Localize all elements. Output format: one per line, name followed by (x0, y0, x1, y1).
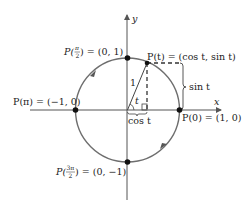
angle-label: t (135, 95, 139, 106)
cos-label: cos t (128, 115, 151, 126)
label-p-pi: P(π) = (−1, 0) (13, 96, 81, 107)
sin-brace (180, 63, 186, 110)
angle-arc (130, 104, 134, 110)
label-p-zero: P(0) = (1, 0) (182, 112, 241, 123)
point-p-3pi-over-2 (125, 159, 131, 165)
radius-label: 1 (130, 77, 136, 88)
point-p-pi-over-2 (125, 55, 131, 61)
sin-label: sin t (189, 81, 210, 92)
svg-text:P(: P( (55, 166, 66, 177)
y-axis-label: y (131, 13, 138, 24)
svg-text:2: 2 (76, 52, 80, 59)
unit-circle-diagram: x y P( π 2 ) = (0, 1) P(π) = (−1, 0) P(0… (0, 0, 246, 211)
point-p-pi (73, 107, 79, 113)
right-angle-marker (142, 104, 147, 110)
label-p-pi-over-2: P( π 2 ) = (0, 1) (63, 44, 123, 59)
x-axis-label: x (214, 96, 220, 107)
svg-text:2: 2 (69, 172, 73, 179)
label-p-t: P(t) = (cos t, sin t) (147, 51, 236, 62)
svg-text:) = (0, 1): ) = (0, 1) (80, 46, 123, 57)
svg-text:3π: 3π (67, 164, 75, 171)
label-p-3pi-over-2: P( 3π 2 ) = (0, −1) (55, 164, 126, 179)
svg-text:P(: P( (63, 46, 74, 57)
svg-text:) = (0, −1): ) = (0, −1) (75, 166, 126, 177)
